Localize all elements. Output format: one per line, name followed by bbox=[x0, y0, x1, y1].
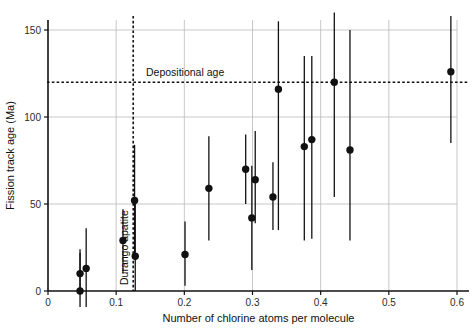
depositional-age-label: Depositional age bbox=[146, 66, 224, 78]
data-point bbox=[346, 146, 353, 153]
x-tick-label: 0.1 bbox=[109, 297, 123, 308]
data-point bbox=[205, 185, 212, 192]
data-point bbox=[82, 265, 89, 272]
gridlines bbox=[48, 20, 457, 291]
x-tick-label: 0.3 bbox=[246, 297, 260, 308]
x-axis-title: Number of chlorine atoms per molecule bbox=[163, 312, 355, 324]
reference-lines bbox=[47, 16, 469, 291]
x-tick-label: 0.4 bbox=[314, 297, 328, 308]
chart-canvas: Depositional ageDurango apatite050100150… bbox=[0, 0, 472, 332]
y-tick-label: 50 bbox=[30, 199, 42, 210]
fission-track-age-chart: Depositional ageDurango apatite050100150… bbox=[0, 0, 472, 332]
data-point bbox=[275, 85, 282, 92]
x-tick-label: 0.6 bbox=[450, 297, 464, 308]
data-point bbox=[131, 197, 138, 204]
data-point bbox=[252, 176, 259, 183]
error-bars bbox=[80, 13, 451, 307]
data-point bbox=[242, 166, 249, 173]
y-tick-label: 100 bbox=[24, 112, 41, 123]
data-point bbox=[76, 270, 83, 277]
x-tick-label: 0.5 bbox=[382, 297, 396, 308]
y-axis-title: Fission track age (Ma) bbox=[4, 101, 16, 210]
data-point bbox=[248, 214, 255, 221]
data-point bbox=[76, 287, 83, 294]
axes bbox=[44, 20, 469, 295]
x-tick-label: 0.2 bbox=[177, 297, 191, 308]
y-tick-label: 0 bbox=[35, 286, 41, 297]
data-point bbox=[269, 193, 276, 200]
data-point bbox=[181, 251, 188, 258]
data-point bbox=[447, 68, 454, 75]
data-point bbox=[308, 136, 315, 143]
durango-apatite-label: Durango apatite bbox=[118, 210, 130, 285]
data-point bbox=[119, 237, 126, 244]
data-point bbox=[132, 253, 139, 260]
y-tick-label: 150 bbox=[24, 25, 41, 36]
data-point bbox=[331, 79, 338, 86]
x-tick-label: 0 bbox=[45, 297, 51, 308]
data-point bbox=[301, 143, 308, 150]
